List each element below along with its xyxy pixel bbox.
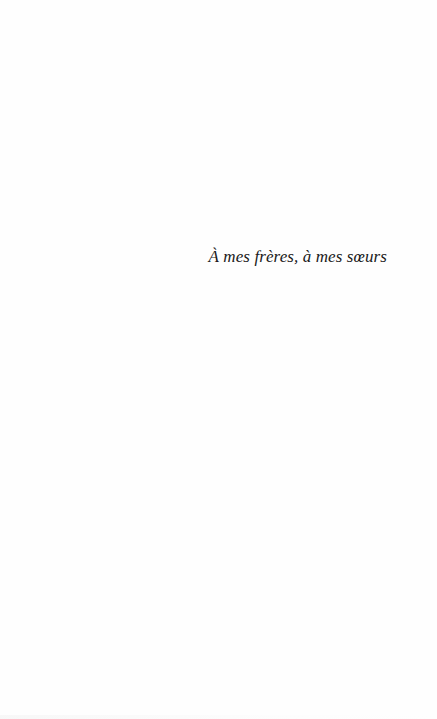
scan-bleed-through — [0, 715, 437, 719]
book-page: À mes frères, à mes sœurs — [0, 0, 437, 719]
dedication-text: À mes frères, à mes sœurs — [209, 247, 387, 267]
